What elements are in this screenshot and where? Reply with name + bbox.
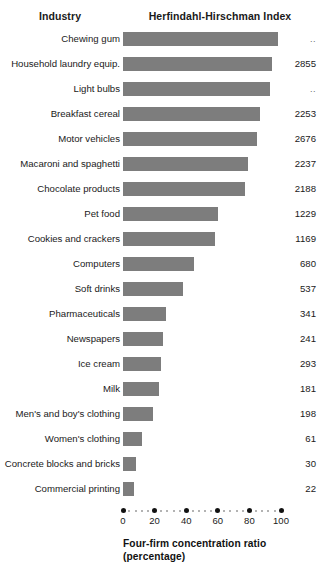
- bar: [123, 307, 166, 321]
- bar-value-label: 293: [282, 357, 316, 371]
- bar-category-label: Milk: [2, 382, 120, 396]
- bar-category-label: Chocolate products: [2, 182, 120, 196]
- bar-value-label: 198: [282, 407, 316, 421]
- axis-tick-label: 0: [108, 515, 138, 526]
- bar-track: [123, 332, 281, 346]
- bar-category-label: Light bulbs: [2, 82, 120, 96]
- bar-value-label: 61: [282, 432, 316, 446]
- bar-row: Breakfast cereal2253: [0, 106, 318, 131]
- axis-minor-tick-dot: [135, 510, 137, 512]
- axis-minor-tick-dot: [173, 510, 175, 512]
- axis-minor-tick-dot: [261, 510, 263, 512]
- bar-category-label: Breakfast cereal: [2, 107, 120, 121]
- bar-track: [123, 257, 281, 271]
- chart-header: Industry Herfindahl-Hirschman Index: [0, 10, 318, 26]
- bar-track: [123, 32, 281, 46]
- axis-minor-tick-dot: [198, 510, 200, 512]
- axis-tick-label: 100: [266, 515, 296, 526]
- bar-category-label: Household laundry equip.: [2, 57, 120, 71]
- bar-row: Motor vehicles2676: [0, 131, 318, 156]
- bar-category-label: Pet food: [2, 207, 120, 221]
- axis-major-tick-dot: [279, 508, 284, 513]
- column-header-hhi: Herfindahl-Hirschman Index: [124, 10, 316, 22]
- axis-minor-tick-dot: [223, 510, 225, 512]
- bar-value-label: 2855: [282, 57, 316, 71]
- axis-minor-tick-dot: [255, 510, 257, 512]
- bar: [123, 407, 153, 421]
- bar: [123, 457, 136, 471]
- bar-value-label: 241: [282, 332, 316, 346]
- bar-row: Household laundry equip.2855: [0, 56, 318, 81]
- axis-major-tick-dot: [184, 508, 189, 513]
- bar: [123, 232, 215, 246]
- bar-row: Pet food1229: [0, 206, 318, 231]
- bar-track: [123, 132, 281, 146]
- bar-track: [123, 232, 281, 246]
- bar: [123, 357, 161, 371]
- bar: [123, 332, 163, 346]
- bar-row: Cookies and crackers1169: [0, 231, 318, 256]
- bar-value-label: 537: [282, 282, 316, 296]
- bar-track: [123, 307, 281, 321]
- bar-row: Ice cream293: [0, 356, 318, 381]
- axis-minor-tick-dot: [204, 510, 206, 512]
- axis-minor-tick-dot: [160, 510, 162, 512]
- bar-row: Women's clothing61: [0, 431, 318, 456]
- axis-minor-tick-dot: [274, 510, 276, 512]
- bar-row: Newspapers241: [0, 331, 318, 356]
- bar-track: [123, 157, 281, 171]
- bar-track: [123, 382, 281, 396]
- axis-tick-label: 20: [140, 515, 170, 526]
- bar-value-label: 680: [282, 257, 316, 271]
- x-axis-title-line1: Four-firm concentration ratio: [123, 538, 266, 549]
- bar: [123, 207, 218, 221]
- bar-track: [123, 107, 281, 121]
- axis-major-tick-dot: [247, 508, 252, 513]
- axis-minor-tick-dot: [229, 510, 231, 512]
- bar-row: Commercial printing22: [0, 481, 318, 506]
- bar-category-label: Pharmaceuticals: [2, 307, 120, 321]
- bar: [123, 107, 260, 121]
- bar-value-label: 181: [282, 382, 316, 396]
- bar-category-label: Newspapers: [2, 332, 120, 346]
- bar-value-label: 2676: [282, 132, 316, 146]
- bar-track: [123, 457, 281, 471]
- bar: [123, 432, 142, 446]
- bar: [123, 482, 134, 496]
- bar: [123, 157, 248, 171]
- bar-category-label: Macaroni and spaghetti: [2, 157, 120, 171]
- bar-row: Computers680: [0, 256, 318, 281]
- bar: [123, 57, 272, 71]
- x-axis-title: Four-firm concentration ratio (percentag…: [123, 537, 313, 563]
- bar-value-label: 2253: [282, 107, 316, 121]
- bar-row: Pharmaceuticals341: [0, 306, 318, 331]
- bar-category-label: Commercial printing: [2, 482, 120, 496]
- bar: [123, 82, 270, 96]
- bar-track: [123, 207, 281, 221]
- bar-row: Chocolate products2188: [0, 181, 318, 206]
- bar-value-label: 1169: [282, 232, 316, 246]
- bar-track: [123, 482, 281, 496]
- axis-major-tick-dot: [121, 508, 126, 513]
- x-axis-title-line2: (percentage): [123, 550, 313, 563]
- bar-value-label: 2188: [282, 182, 316, 196]
- bar-track: [123, 282, 281, 296]
- bar-row: Men's and boy's clothing198: [0, 406, 318, 431]
- bar: [123, 32, 278, 46]
- bar-category-label: Computers: [2, 257, 120, 271]
- bar-track: [123, 357, 281, 371]
- bar-value-label: 1229: [282, 207, 316, 221]
- bar-row: Soft drinks537: [0, 281, 318, 306]
- bar-value-label: 22: [282, 482, 316, 496]
- axis-minor-tick-dot: [242, 510, 244, 512]
- axis-tick-labels: 020406080100: [123, 515, 285, 529]
- bar: [123, 382, 159, 396]
- axis-tick-label: 80: [234, 515, 264, 526]
- bar-row: Light bulbs..: [0, 81, 318, 106]
- axis-minor-tick-dot: [192, 510, 194, 512]
- axis-major-tick-dot: [152, 508, 157, 513]
- bar: [123, 132, 257, 146]
- bar: [123, 182, 245, 196]
- bar-row: Macaroni and spaghetti2237: [0, 156, 318, 181]
- bar: [123, 257, 194, 271]
